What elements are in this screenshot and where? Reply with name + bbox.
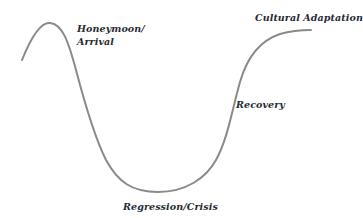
honeymoon-label-line2: Arrival	[77, 35, 145, 48]
recovery-label: Recovery	[236, 98, 285, 111]
honeymoon-arrival-label: Honeymoon/ Arrival	[77, 22, 145, 48]
honeymoon-label-line1: Honeymoon/	[77, 22, 145, 35]
regression-crisis-label: Regression/Crisis	[123, 200, 218, 213]
cultural-adaptation-label: Cultural Adaptation	[255, 11, 363, 24]
